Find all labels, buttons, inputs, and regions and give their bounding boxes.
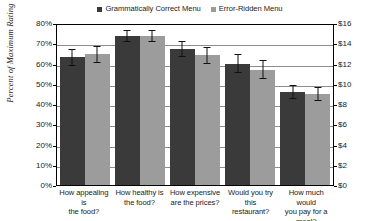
error-bar-stem xyxy=(97,46,98,62)
bar xyxy=(170,49,195,185)
y-axis-right-tick-label: $8 xyxy=(338,101,378,109)
y-axis-left-tick-label: 60% xyxy=(0,61,52,69)
error-bar xyxy=(69,49,76,65)
error-bar-stem xyxy=(317,87,318,101)
bar-group xyxy=(225,25,275,185)
y-axis-right-tick-mark xyxy=(334,44,337,45)
error-bar-stem xyxy=(72,49,73,65)
y-axis-left-tick-label: 70% xyxy=(0,40,52,48)
bar xyxy=(305,94,330,185)
bar xyxy=(225,64,250,186)
error-bar-stem xyxy=(262,60,263,78)
bar-wrapper xyxy=(140,25,165,185)
bar-wrapper xyxy=(85,25,110,185)
bar-chart: Grammatically Correct Menu Error-Ridden … xyxy=(0,0,380,221)
y-axis-right-tick-mark xyxy=(334,186,337,187)
y-axis-left-tick-label: 0% xyxy=(0,182,52,190)
error-bar-cap-top xyxy=(314,87,321,88)
error-bar-cap-bottom xyxy=(234,72,241,73)
y-axis-left-tick-label: 50% xyxy=(0,81,52,89)
y-axis-left-tick-label: 10% xyxy=(0,162,52,170)
y-axis-right-tick-label: $16 xyxy=(338,20,378,28)
bar-wrapper xyxy=(305,25,330,185)
bar-group xyxy=(115,25,165,185)
y-axis-right-tick-mark xyxy=(334,146,337,147)
error-bar-cap-bottom xyxy=(69,65,76,66)
bar-wrapper xyxy=(170,25,195,185)
x-axis-category-labels: How appealing isthe food?How healthy ist… xyxy=(56,188,334,218)
error-bar-cap-top xyxy=(94,46,101,47)
bar-wrapper xyxy=(60,25,85,185)
error-bar xyxy=(179,41,186,57)
legend-swatch-light xyxy=(211,7,216,12)
y-axis-right-tick-label: $14 xyxy=(338,40,378,48)
y-axis-right-tick-mark xyxy=(334,105,337,106)
bar-wrapper xyxy=(115,25,140,185)
y-axis-right-tick-mark xyxy=(334,85,337,86)
chart-legend: Grammatically Correct Menu Error-Ridden … xyxy=(0,2,380,16)
error-bar-stem xyxy=(237,54,238,72)
bar-group xyxy=(280,25,330,185)
y-axis-left-tick-label: 20% xyxy=(0,142,52,150)
bar xyxy=(85,54,110,185)
bar-group xyxy=(60,25,110,185)
error-bar xyxy=(124,30,131,42)
bar xyxy=(60,57,85,185)
error-bar-cap-bottom xyxy=(259,78,266,79)
y-axis-right-tick-mark xyxy=(334,125,337,126)
bar-wrapper xyxy=(195,25,220,185)
y-axis-right-tick-label: $0 xyxy=(338,182,378,190)
legend-item-error-ridden-menu: Error-Ridden Menu xyxy=(211,5,283,13)
x-axis-category-label: How much wouldyou pay for a meal? xyxy=(278,188,334,218)
legend-label-error-ridden-menu: Error-Ridden Menu xyxy=(219,5,283,13)
error-bar-cap-bottom xyxy=(124,41,131,42)
error-bar xyxy=(204,47,211,63)
y-axis-right-tick-label: $4 xyxy=(338,142,378,150)
error-bar-cap-top xyxy=(69,49,76,50)
bar xyxy=(280,92,305,185)
x-axis-category-label: Would you try thisrestaurant? xyxy=(223,188,279,218)
error-bar-stem xyxy=(207,47,208,63)
x-axis-category-label: How expensiveare the prices? xyxy=(167,188,223,218)
bar xyxy=(140,36,165,185)
bar-group xyxy=(170,25,220,185)
error-bar-cap-bottom xyxy=(314,100,321,101)
error-bar-cap-bottom xyxy=(179,56,186,57)
bar-wrapper xyxy=(280,25,305,185)
error-bar-cap-bottom xyxy=(204,63,211,64)
y-axis-right-tick-label: $10 xyxy=(338,81,378,89)
error-bar-cap-bottom xyxy=(289,98,296,99)
error-bar-cap-bottom xyxy=(149,41,156,42)
bar-groups xyxy=(57,25,333,185)
error-bar xyxy=(259,60,266,78)
y-axis-right-tick-label: $6 xyxy=(338,121,378,129)
x-axis-category-label: How appealing isthe food? xyxy=(56,188,112,218)
y-axis-right-tick-mark xyxy=(334,24,337,25)
bar xyxy=(250,70,275,185)
error-bar-stem xyxy=(182,41,183,57)
error-bar-cap-top xyxy=(179,41,186,42)
error-bar-stem xyxy=(292,85,293,99)
error-bar xyxy=(314,87,321,101)
legend-label-grammatically-correct-menu: Grammatically Correct Menu xyxy=(105,5,200,13)
error-bar xyxy=(234,54,241,72)
y-axis-right-tick-mark xyxy=(334,65,337,66)
y-axis-right-tick-label: $12 xyxy=(338,61,378,69)
error-bar-cap-top xyxy=(149,30,156,31)
error-bar-cap-bottom xyxy=(94,62,101,63)
y-axis-left-tick-label: 40% xyxy=(0,101,52,109)
x-axis-category-label: How healthy isthe food? xyxy=(112,188,168,218)
error-bar xyxy=(94,46,101,62)
error-bar-cap-top xyxy=(204,47,211,48)
error-bar-cap-top xyxy=(234,54,241,55)
error-bar xyxy=(149,30,156,42)
error-bar-cap-top xyxy=(289,85,296,86)
bar xyxy=(195,55,220,185)
bar-wrapper xyxy=(250,25,275,185)
y-axis-left-tick-label: 80% xyxy=(0,20,52,28)
y-axis-left-tick-mark xyxy=(53,186,56,187)
error-bar-cap-top xyxy=(124,30,131,31)
bar xyxy=(115,36,140,185)
y-axis-title: Percent of Maximum Rating xyxy=(5,0,15,108)
legend-item-grammatically-correct-menu: Grammatically Correct Menu xyxy=(97,5,200,13)
